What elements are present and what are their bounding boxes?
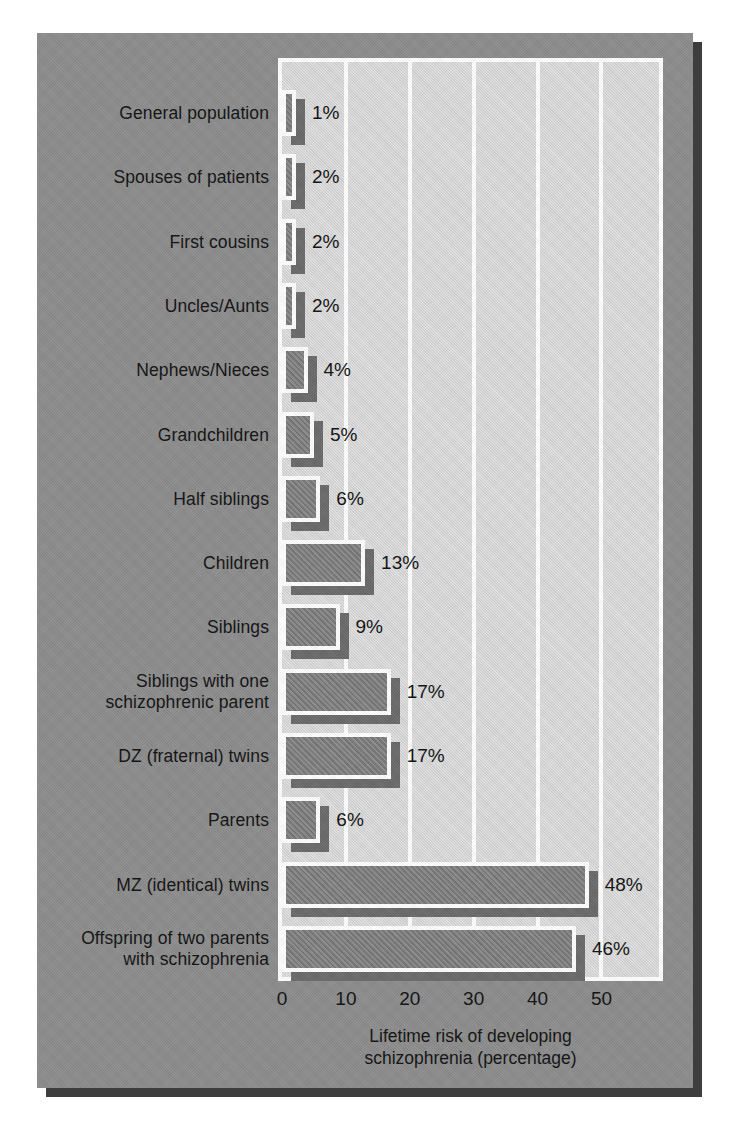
bar-container: 48%: [282, 862, 589, 908]
category-label: Offspring of two parents with schizophre…: [29, 928, 269, 970]
x-tick-label: 20: [399, 988, 420, 1010]
bar-value-label: 6%: [336, 488, 363, 510]
bar-value-label: 1%: [312, 102, 339, 124]
bar: 2%: [282, 283, 296, 329]
x-tick-label: 50: [591, 988, 612, 1010]
bar-value-label: 17%: [407, 681, 445, 703]
bar-value-label: 48%: [605, 874, 643, 896]
bar-container: 5%: [282, 412, 314, 458]
bar: 2%: [282, 154, 296, 200]
bar: 2%: [282, 219, 296, 265]
bar: 5%: [282, 412, 314, 458]
bar-container: 17%: [282, 733, 391, 779]
category-label: Spouses of patients: [29, 167, 269, 188]
bar-value-label: 2%: [312, 231, 339, 253]
bar: 4%: [282, 347, 308, 393]
category-label: Nephews/Nieces: [29, 360, 269, 381]
bar: 13%: [282, 540, 365, 586]
bar-value-label: 13%: [381, 552, 419, 574]
category-label: Parents: [29, 810, 269, 831]
bar-container: 2%: [282, 219, 296, 265]
category-label: DZ (fraternal) twins: [29, 746, 269, 767]
category-label: Siblings with one schizophrenic parent: [29, 671, 269, 713]
category-label: Grandchildren: [29, 424, 269, 445]
bar: 6%: [282, 797, 320, 843]
x-axis-ticks: 01020304050: [278, 988, 663, 1016]
bar-container: 2%: [282, 154, 296, 200]
category-label: Children: [29, 553, 269, 574]
category-label: General population: [29, 103, 269, 124]
bar: 46%: [282, 926, 576, 972]
bar-container: 2%: [282, 283, 296, 329]
bar-value-label: 2%: [312, 295, 339, 317]
bar-value-label: 2%: [312, 166, 339, 188]
bar-value-label: 17%: [407, 745, 445, 767]
bar-container: 13%: [282, 540, 365, 586]
bar-value-label: 6%: [336, 809, 363, 831]
bar: 48%: [282, 862, 589, 908]
bar-container: 1%: [282, 90, 296, 136]
bar: 6%: [282, 476, 320, 522]
bar-container: 9%: [282, 604, 340, 650]
category-label: Siblings: [29, 617, 269, 638]
bar: 1%: [282, 90, 296, 136]
bar-value-label: 9%: [356, 616, 383, 638]
bar-rows: General population1%Spouses of patients2…: [37, 33, 693, 981]
bar-container: 6%: [282, 797, 320, 843]
bar-container: 6%: [282, 476, 320, 522]
x-tick-label: 10: [335, 988, 356, 1010]
bar: 17%: [282, 733, 391, 779]
category-label: Half siblings: [29, 488, 269, 509]
x-tick-label: 30: [463, 988, 484, 1010]
x-tick-label: 40: [527, 988, 548, 1010]
figure-panel: General population1%Spouses of patients2…: [37, 33, 693, 1088]
x-tick-label: 0: [277, 988, 288, 1010]
x-axis-title: Lifetime risk of developing schizophreni…: [278, 1025, 663, 1069]
bar: 9%: [282, 604, 340, 650]
category-label: Uncles/Aunts: [29, 295, 269, 316]
category-label: First cousins: [29, 231, 269, 252]
category-label: MZ (identical) twins: [29, 874, 269, 895]
bar-container: 46%: [282, 926, 576, 972]
bar-container: 17%: [282, 669, 391, 715]
bar-value-label: 46%: [592, 938, 630, 960]
bar-container: 4%: [282, 347, 308, 393]
bar: 17%: [282, 669, 391, 715]
bar-value-label: 5%: [330, 424, 357, 446]
bar-value-label: 4%: [324, 359, 351, 381]
